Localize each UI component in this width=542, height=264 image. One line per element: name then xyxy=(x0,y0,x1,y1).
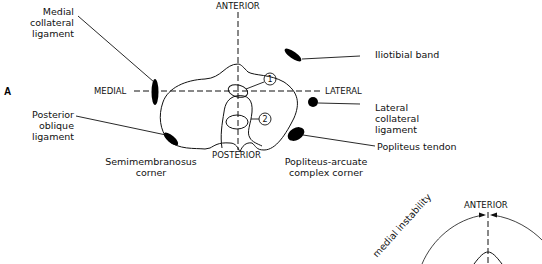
marker-1-leader xyxy=(246,82,264,89)
second-diagram-anterior-label: ANTERIOR xyxy=(464,200,508,210)
axis-label-lateral: LATERAL xyxy=(325,86,362,96)
mcl-shape xyxy=(152,79,159,105)
lcl-leader xyxy=(318,103,360,104)
popliteus-arcuate-label-line2: complex corner xyxy=(289,167,363,178)
itb-leader xyxy=(302,56,360,59)
pcl-insertion xyxy=(226,115,248,129)
second-diagram: ANTERIOR medial instability xyxy=(370,191,542,264)
second-diagram-rotated-label: medial instability xyxy=(370,191,433,259)
axis-label-posterior: POSTERIOR xyxy=(212,150,261,160)
itb-label: Iliotibial band xyxy=(375,49,439,60)
axis-label-medial: MEDIAL xyxy=(94,86,127,96)
knee-ligament-diagram: A ANTERIOR POSTERIOR MEDIAL LATERAL 1 2 … xyxy=(0,0,542,264)
popliteus-tendon-label: Popliteus tendon xyxy=(377,141,457,152)
marker-1-label: 1 xyxy=(268,75,273,84)
pol-label-line2: oblique xyxy=(39,120,74,131)
second-diagram-left-arc xyxy=(422,215,484,264)
marker-2-label: 2 xyxy=(263,115,268,124)
panel-label: A xyxy=(4,86,11,97)
pol-label-line1: Posterior xyxy=(32,109,74,120)
second-diagram-right-arc xyxy=(492,215,542,240)
tibial-plateau-outline xyxy=(160,64,297,152)
semimembranosus-label-line2: corner xyxy=(136,167,167,178)
lcl-label-line3: ligament xyxy=(375,124,417,135)
lcl-shape xyxy=(308,97,318,107)
semimembranosus-label-line1: Semimembranosus xyxy=(105,156,197,167)
mcl-label-line3: ligament xyxy=(32,28,74,39)
lcl-label-line1: Lateral xyxy=(375,102,408,113)
lcl-label-line2: collateral xyxy=(375,113,419,124)
mcl-label-line2: collateral xyxy=(30,17,74,28)
axis-label-anterior: ANTERIOR xyxy=(216,1,260,11)
itb-shape xyxy=(283,46,303,63)
pol-leader xyxy=(76,116,166,135)
popliteus-arcuate-label-line1: Popliteus-arcuate xyxy=(285,156,368,167)
pol-label-line3: ligament xyxy=(32,131,74,142)
mcl-leader xyxy=(78,16,154,82)
popliteus-tendon-shape xyxy=(285,124,307,143)
popliteus-tendon-leader xyxy=(303,135,375,146)
intercondylar-contour xyxy=(221,96,262,148)
right-arrowhead-icon xyxy=(490,213,497,218)
mcl-label-line1: Medial xyxy=(43,6,74,17)
pol-shape xyxy=(162,131,180,148)
left-arrowhead-icon xyxy=(479,213,486,218)
